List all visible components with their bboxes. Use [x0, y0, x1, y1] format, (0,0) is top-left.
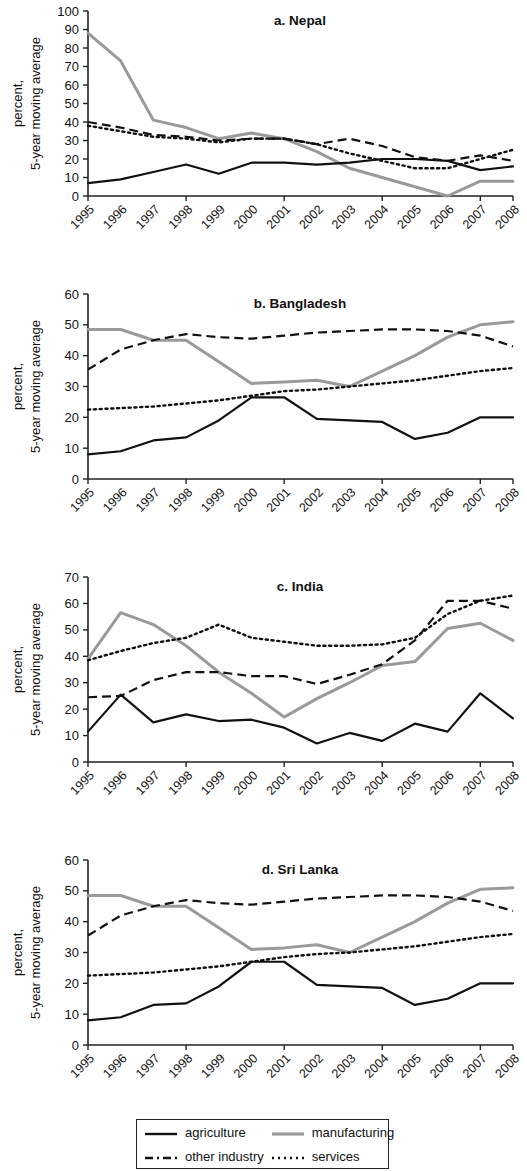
y-tick-label-nepal-40: 40	[65, 115, 79, 130]
x-tick-label-sri_lanka-2000: 2000	[231, 1051, 261, 1081]
x-tick-label-bangladesh-1997: 1997	[133, 485, 163, 515]
chart-svg-nepal: a. Nepal01020304050607080901001995199619…	[0, 0, 527, 283]
x-tick-label-bangladesh-2002: 2002	[296, 485, 326, 515]
x-tick-label-nepal-2004: 2004	[362, 202, 392, 232]
x-tick-label-bangladesh-1995: 1995	[68, 485, 98, 515]
y-tick-label-nepal-80: 80	[65, 41, 79, 56]
series-line-bangladesh-services	[88, 368, 513, 410]
legend-item-manufacturing: manufacturing	[264, 1125, 394, 1140]
y-tick-label-india-20: 20	[65, 702, 79, 717]
y-tick-label-sri_lanka-30: 30	[65, 945, 79, 960]
x-tick-label-sri_lanka-2005: 2005	[394, 1051, 424, 1081]
y-axis-title-line1-sri_lanka: percent,	[10, 929, 25, 976]
y-tick-label-nepal-50: 50	[65, 96, 79, 111]
x-tick-label-bangladesh-2005: 2005	[394, 485, 424, 515]
y-tick-label-india-60: 60	[65, 596, 79, 611]
x-tick-label-bangladesh-2001: 2001	[264, 485, 294, 515]
y-axis-title-line2-sri_lanka: 5-year moving average	[28, 886, 43, 1019]
y-axis-title-line1-india: percent,	[10, 646, 25, 693]
y-tick-label-bangladesh-0: 0	[72, 472, 79, 487]
legend-line-agriculture-icon	[144, 1126, 178, 1138]
y-tick-label-sri_lanka-10: 10	[65, 1007, 79, 1022]
x-tick-label-india-1998: 1998	[166, 768, 196, 798]
series-line-india-agriculture	[88, 693, 513, 743]
x-tick-label-bangladesh-2006: 2006	[427, 485, 457, 515]
x-tick-label-bangladesh-2008: 2008	[493, 485, 523, 515]
x-tick-label-nepal-2001: 2001	[264, 202, 294, 232]
chart-svg-sri-lanka: d. Sri Lanka0102030405060199519961997199…	[0, 849, 527, 1132]
x-tick-label-sri_lanka-2006: 2006	[427, 1051, 457, 1081]
x-tick-label-india-2000: 2000	[231, 768, 261, 798]
y-axis-title-line2-bangladesh: 5-year moving average	[28, 320, 43, 453]
y-tick-label-sri_lanka-50: 50	[65, 883, 79, 898]
y-axis-title-line1-nepal: percent,	[10, 80, 25, 127]
series-line-sri_lanka-services	[88, 934, 513, 976]
y-tick-label-nepal-100: 100	[57, 4, 79, 19]
y-tick-label-sri_lanka-20: 20	[65, 976, 79, 991]
x-tick-label-nepal-1996: 1996	[100, 202, 130, 232]
legend-line-manufacturing-icon	[271, 1126, 305, 1138]
x-tick-label-bangladesh-1996: 1996	[100, 485, 130, 515]
x-tick-label-sri_lanka-2001: 2001	[264, 1051, 294, 1081]
y-tick-label-india-40: 40	[65, 649, 79, 664]
x-tick-label-bangladesh-2004: 2004	[362, 485, 392, 515]
x-tick-label-sri_lanka-2008: 2008	[493, 1051, 523, 1081]
y-axis-title-line2-india: 5-year moving average	[28, 603, 43, 736]
series-line-nepal-other_industry	[88, 122, 513, 161]
y-tick-label-sri_lanka-40: 40	[65, 914, 79, 929]
y-tick-label-nepal-60: 60	[65, 78, 79, 93]
x-tick-label-sri_lanka-2004: 2004	[362, 1051, 392, 1081]
x-tick-label-india-1996: 1996	[100, 768, 130, 798]
legend-grid: agriculture manufacturing other industry…	[137, 1120, 388, 1168]
x-tick-label-sri_lanka-1995: 1995	[68, 1051, 98, 1081]
y-tick-label-bangladesh-30: 30	[65, 379, 79, 394]
x-tick-label-india-2004: 2004	[362, 768, 392, 798]
x-tick-label-india-2007: 2007	[460, 768, 490, 798]
y-tick-label-nepal-0: 0	[72, 189, 79, 204]
legend-label-manufacturing: manufacturing	[312, 1125, 394, 1140]
y-tick-label-india-10: 10	[65, 728, 79, 743]
x-tick-label-nepal-2005: 2005	[394, 202, 424, 232]
x-tick-label-sri_lanka-2007: 2007	[460, 1051, 490, 1081]
panel-india: c. India01020304050607019951996199719981…	[0, 566, 527, 849]
y-tick-label-nepal-20: 20	[65, 152, 79, 167]
y-tick-label-india-50: 50	[65, 622, 79, 637]
x-tick-label-nepal-2008: 2008	[493, 202, 523, 232]
y-tick-label-nepal-10: 10	[65, 170, 79, 185]
panel-title-india: c. India	[277, 579, 324, 594]
series-line-india-other_industry	[88, 601, 513, 697]
y-tick-label-nepal-90: 90	[65, 22, 79, 37]
y-axis-title-line1-bangladesh: percent,	[10, 363, 25, 410]
legend-label-services: services	[312, 1149, 360, 1164]
x-tick-label-india-1995: 1995	[68, 768, 98, 798]
y-tick-label-bangladesh-50: 50	[65, 317, 79, 332]
legend-label-agriculture: agriculture	[185, 1125, 246, 1140]
x-tick-label-sri_lanka-2002: 2002	[296, 1051, 326, 1081]
x-tick-label-nepal-1995: 1995	[68, 202, 98, 232]
x-tick-label-india-2001: 2001	[264, 768, 294, 798]
x-tick-label-india-2003: 2003	[329, 768, 359, 798]
y-tick-label-sri_lanka-0: 0	[72, 1038, 79, 1053]
x-tick-label-india-2006: 2006	[427, 768, 457, 798]
x-tick-label-nepal-2007: 2007	[460, 202, 490, 232]
x-tick-label-nepal-2006: 2006	[427, 202, 457, 232]
x-tick-label-india-1997: 1997	[133, 768, 163, 798]
x-tick-label-nepal-1997: 1997	[133, 202, 163, 232]
legend-line-other-industry-icon	[144, 1150, 178, 1162]
series-line-nepal-agriculture	[88, 159, 513, 183]
y-tick-label-sri_lanka-60: 60	[65, 853, 79, 868]
x-tick-label-sri_lanka-1999: 1999	[198, 1051, 228, 1081]
y-tick-label-bangladesh-60: 60	[65, 287, 79, 302]
y-tick-label-bangladesh-10: 10	[65, 441, 79, 456]
legend-item-services: services	[264, 1149, 394, 1164]
x-tick-label-sri_lanka-1997: 1997	[133, 1051, 163, 1081]
x-tick-label-bangladesh-1998: 1998	[166, 485, 196, 515]
legend-label-other-industry: other industry	[185, 1149, 264, 1164]
y-tick-label-india-70: 70	[65, 570, 79, 585]
x-tick-label-sri_lanka-1996: 1996	[100, 1051, 130, 1081]
y-tick-label-bangladesh-40: 40	[65, 348, 79, 363]
legend-item-agriculture: agriculture	[137, 1125, 264, 1140]
x-tick-label-nepal-2000: 2000	[231, 202, 261, 232]
chart-legend: agriculture manufacturing other industry…	[136, 1119, 389, 1169]
panel-title-sri_lanka: d. Sri Lanka	[262, 862, 339, 877]
